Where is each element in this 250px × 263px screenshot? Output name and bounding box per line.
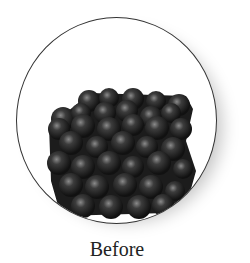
atom-cluster-icon — [17, 18, 217, 224]
figure-caption: Before — [0, 238, 234, 261]
inset-circle — [16, 17, 217, 224]
